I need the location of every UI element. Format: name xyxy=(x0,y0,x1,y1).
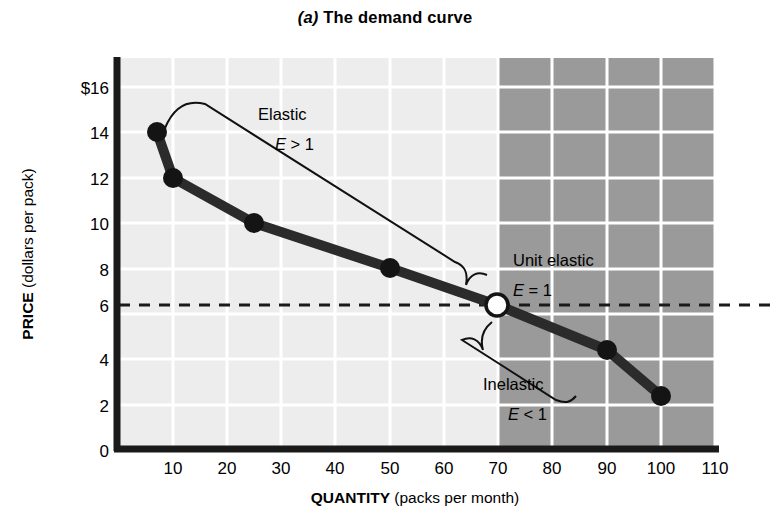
y-tick-14: 14 xyxy=(90,124,109,143)
x-tick-90: 90 xyxy=(598,459,617,478)
x-tick-30: 30 xyxy=(272,459,291,478)
x-axis-title-paren: (packs per month) xyxy=(390,489,519,506)
annotation-unit-elastic-rel: = 1 xyxy=(524,281,552,299)
data-point-unit-elastic-q70-p6 xyxy=(486,294,508,316)
x-tick-40: 40 xyxy=(326,459,345,478)
y-axis-tick-labels: $16 14 12 10 8 6 4 2 0 xyxy=(81,79,109,461)
annotation-inelastic-rel: < 1 xyxy=(519,405,547,423)
x-tick-10: 10 xyxy=(164,459,183,478)
chart-canvas: Elastic E > 1 Unit elastic E = 1 Inelast… xyxy=(0,0,770,530)
demand-curve-figure: (a) The demand curve xyxy=(0,0,770,530)
y-tick-10: 10 xyxy=(90,215,109,234)
annotation-unit-elastic-label: Unit elastic xyxy=(513,251,594,269)
annotation-elastic-rel: > 1 xyxy=(286,135,314,153)
y-tick-12: 12 xyxy=(90,170,109,189)
x-tick-20: 20 xyxy=(218,459,237,478)
data-point-q90-p4 xyxy=(597,340,617,360)
annotation-inelastic-value: E < 1 xyxy=(508,405,547,423)
x-axis-title-strong: QUANTITY xyxy=(311,489,391,506)
x-tick-110: 110 xyxy=(701,459,728,478)
y-axis-title-strong: PRICE xyxy=(19,292,36,339)
y-tick-6: 6 xyxy=(100,297,109,316)
y-tick-8: 8 xyxy=(100,261,109,280)
y-tick-0: 0 xyxy=(100,442,109,461)
y-axis-title: PRICE (dollars per pack) xyxy=(19,168,36,339)
x-axis-title: QUANTITY (packs per month) xyxy=(311,489,519,506)
annotation-unit-elastic-value: E = 1 xyxy=(513,281,552,299)
x-tick-60: 60 xyxy=(435,459,454,478)
data-point-q10-p12 xyxy=(163,168,183,188)
x-tick-50: 50 xyxy=(381,459,400,478)
annotation-inelastic-label: Inelastic xyxy=(483,375,544,393)
data-point-q100-p2 xyxy=(651,386,671,406)
data-point-q50-p8 xyxy=(380,258,400,278)
x-axis-tick-labels: 10 20 30 40 50 60 70 80 90 100 110 xyxy=(164,459,729,478)
x-tick-80: 80 xyxy=(543,459,562,478)
data-point-q5-p14 xyxy=(147,122,167,142)
x-tick-100: 100 xyxy=(647,459,675,478)
y-tick-16: $16 xyxy=(81,79,109,98)
x-tick-70: 70 xyxy=(489,459,508,478)
data-point-q25-p10 xyxy=(244,213,264,233)
annotation-elastic-label: Elastic xyxy=(258,105,307,123)
y-tick-2: 2 xyxy=(100,397,109,416)
annotation-elastic-value: E > 1 xyxy=(275,135,314,153)
y-axis-title-paren: (dollars per pack) xyxy=(19,168,36,292)
y-tick-4: 4 xyxy=(100,351,109,370)
